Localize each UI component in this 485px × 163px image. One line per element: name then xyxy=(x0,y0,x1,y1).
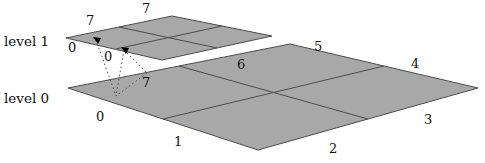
level-1-vertex-label-7b: 7 xyxy=(142,2,150,15)
level-0-vertex-label-3: 3 xyxy=(424,113,432,126)
level-1-vertex-label-7a: 7 xyxy=(86,14,94,27)
mesh-refinement-diagram: level 1 level 0 7 7 0 0 5 6 4 7 3 0 1 2 xyxy=(0,0,485,163)
level-0-vertex-label-1: 1 xyxy=(174,135,182,148)
level-0-vertex-label-6: 6 xyxy=(237,58,245,71)
level-0-vertex-label-0: 0 xyxy=(96,110,104,123)
level-1-vertex-label-0a: 0 xyxy=(68,41,76,54)
level-0-caption: level 0 xyxy=(4,92,49,106)
level-0-vertex-label-4: 4 xyxy=(411,57,419,70)
level-1-vertex-label-0b: 0 xyxy=(104,50,112,63)
diagram-canvas xyxy=(0,0,485,163)
level-1-caption: level 1 xyxy=(4,35,49,49)
level-0-vertex-label-5: 5 xyxy=(314,40,322,53)
level-0-vertex-label-7: 7 xyxy=(142,76,150,89)
level-0-vertex-label-2: 2 xyxy=(329,142,337,155)
